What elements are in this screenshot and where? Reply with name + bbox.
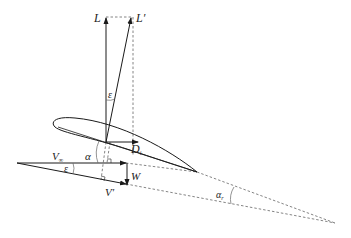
v-inf-subscript: ∞: [59, 157, 64, 163]
alpha-eff-label: αr: [216, 189, 224, 201]
dashed-perpendicular-1: [101, 142, 106, 180]
lift-label: L: [93, 11, 101, 25]
epsilon-label-top: ε: [108, 89, 112, 100]
induced-drag-label: Di: [130, 142, 142, 156]
downwash-label: W: [131, 170, 141, 182]
dashed-v-prime-extension: [126, 184, 335, 223]
dashed-perpendicular-2: [107, 142, 110, 163]
alpha-eff-arc: [230, 187, 234, 204]
epsilon-arc-bottom: [73, 163, 74, 174]
v-inf-label: V∞: [52, 150, 64, 163]
v-prime-label: V′: [105, 186, 115, 198]
airfoil-shape: [53, 118, 197, 172]
alpha-eff-subscript: r: [221, 195, 224, 201]
epsilon-label-bottom: ε: [64, 163, 68, 174]
induced-drag-main: D: [130, 142, 140, 156]
induced-drag-subscript: i: [140, 150, 142, 156]
tilted-lift-label: L′: [135, 11, 146, 25]
airfoil-force-diagram: L L′ ε Di α V∞ ε W V′ αr: [0, 0, 351, 238]
alpha-arc: [96, 141, 99, 163]
alpha-label: α: [85, 150, 91, 162]
tilted-lift-arrow: [106, 18, 131, 142]
v-prime-arrow: [17, 163, 126, 184]
